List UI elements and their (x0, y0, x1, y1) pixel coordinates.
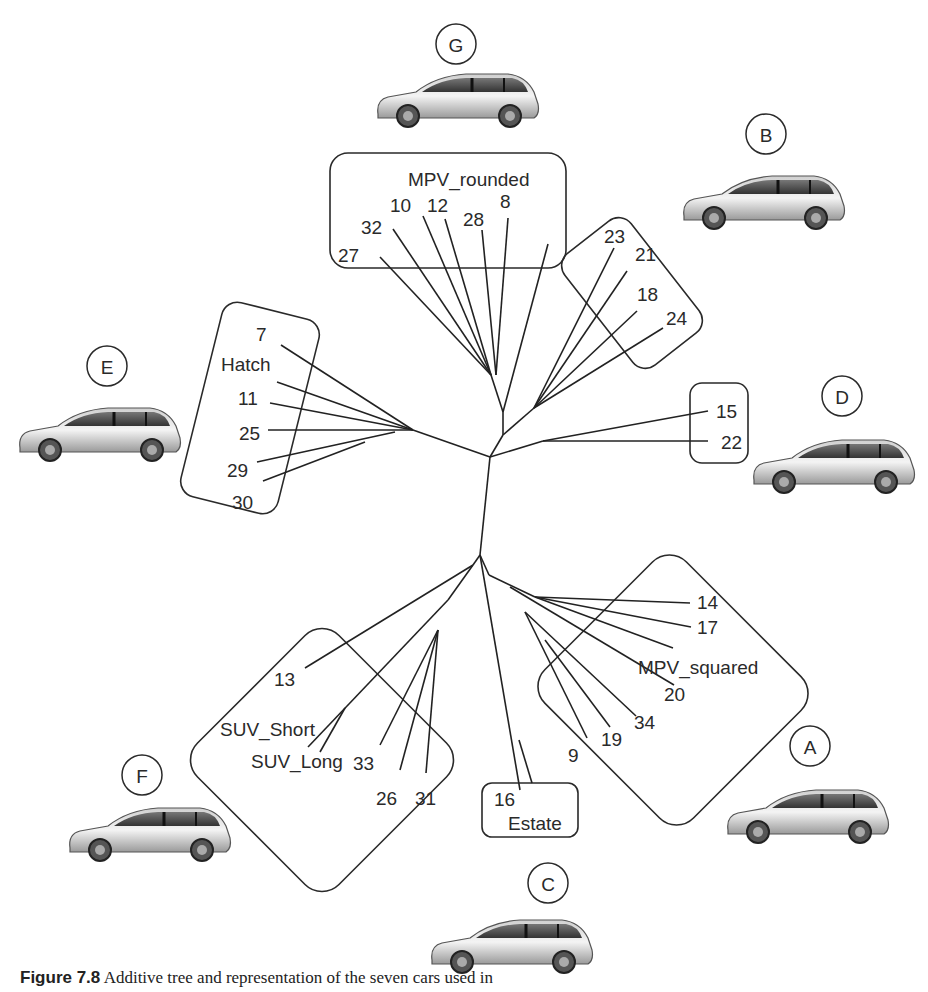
leaf-13: 13 (274, 669, 295, 690)
leaf-9: 9 (568, 745, 579, 766)
leaf-12: 12 (427, 195, 448, 216)
car-e-label: E (101, 357, 114, 378)
leaf-15: 15 (716, 401, 737, 422)
car-e-icon (20, 408, 181, 461)
leaf-33: 33 (353, 753, 374, 774)
leaf-8: 8 (500, 191, 511, 212)
leaf-32: 32 (361, 217, 382, 238)
group-label-hatch: Hatch (221, 354, 271, 375)
leaf-23: 23 (604, 226, 625, 247)
leaf-16: 16 (494, 789, 515, 810)
car-c-label: C (541, 874, 555, 895)
leaf-7: 7 (256, 324, 267, 345)
leaf-11: 11 (238, 388, 258, 409)
car-a-label: A (804, 737, 817, 758)
leaf-20: 20 (664, 684, 685, 705)
leaf-21: 21 (635, 244, 656, 265)
cluster-box-b (555, 211, 709, 375)
leaf-31: 31 (415, 788, 436, 809)
group-label-mpv-rounded: MPV_rounded (408, 169, 529, 191)
leaf-10: 10 (390, 195, 411, 216)
group-label-suv-short: SUV_Short (220, 719, 316, 741)
leaf-17: 17 (697, 617, 718, 638)
leaf-22: 22 (721, 432, 742, 453)
car-g-icon (378, 74, 539, 127)
figure-caption: Figure 7.8 Additive tree and representat… (20, 968, 493, 988)
car-f-icon (70, 808, 231, 861)
leaf-25: 25 (239, 423, 260, 444)
car-f: F (70, 755, 231, 861)
leaf-34: 34 (634, 712, 656, 733)
leaf-19: 19 (601, 729, 622, 750)
group-label-estate: Estate (508, 813, 562, 834)
car-d-label: D (835, 387, 849, 408)
car-a: A (728, 726, 889, 843)
leaf-18: 18 (637, 284, 658, 305)
leaf-14: 14 (697, 592, 719, 613)
group-label-suv-long: SUV_Long (251, 751, 343, 773)
car-f-label: F (136, 766, 148, 787)
car-d-icon (754, 440, 915, 493)
car-g-label: G (449, 35, 464, 56)
car-a-icon (728, 790, 889, 843)
leaf-26: 26 (376, 788, 397, 809)
group-label-mpv-squared: MPV_squared (638, 657, 758, 679)
figure-caption-text: Additive tree and representation of the … (104, 968, 493, 987)
car-c: C (432, 863, 593, 973)
car-e: E (20, 346, 181, 461)
cluster-d: 15 22 (716, 401, 742, 453)
leaf-24: 24 (666, 308, 688, 329)
car-b-icon (684, 176, 845, 229)
car-g: G (378, 24, 539, 127)
figure-caption-label: Figure 7.8 (20, 968, 100, 987)
leaf-29: 29 (227, 460, 248, 481)
car-b-label: B (760, 125, 773, 146)
cluster-estate: 16 Estate (494, 789, 562, 834)
car-c-icon (432, 920, 593, 973)
leaf-28: 28 (463, 209, 484, 230)
additive-tree-diagram: G B D E A F C (0, 0, 928, 992)
cluster-mpv-rounded: MPV_rounded 27 32 10 12 28 8 (338, 169, 529, 266)
leaf-27: 27 (338, 245, 359, 266)
leaf-30: 30 (232, 492, 253, 513)
car-b: B (684, 114, 845, 229)
cluster-hatch: 7 Hatch 11 25 29 30 (221, 324, 271, 513)
car-d: D (754, 376, 915, 493)
